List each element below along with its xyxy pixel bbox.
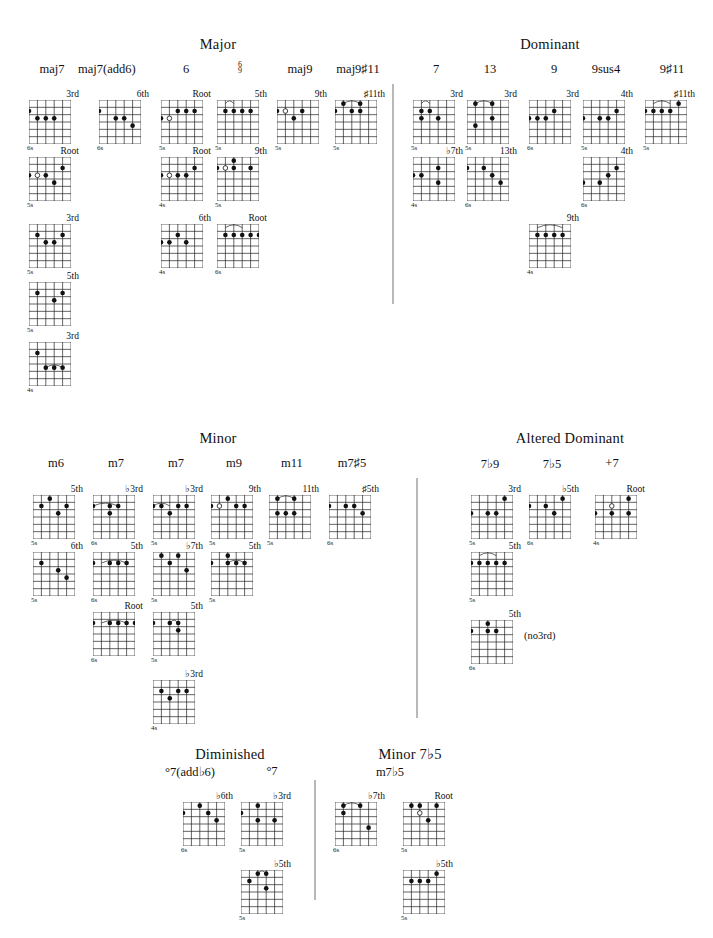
chord-diagram-caption: 5th [466, 608, 522, 620]
divider-dim-m7b5 [314, 780, 316, 900]
fret-position-label: 5s [236, 914, 292, 923]
chord-diagram-m9-2: 5th5s [206, 540, 262, 605]
divider-major-dominant [392, 84, 394, 304]
divider-minor-altered [416, 478, 418, 718]
fretboard-grid [335, 802, 377, 846]
fret-position-label: 5s [148, 656, 204, 665]
chord-label-m7a: m7 [88, 456, 144, 471]
chord-diagram-caption: ♭5th [524, 483, 580, 495]
chord-diagram-dom9sus4-1: 4th5s [578, 88, 634, 153]
chord-diagram-caption: 5th [148, 600, 204, 612]
chord-diagram-caption: ♭3rd [88, 483, 144, 495]
chord-diagram-caption: ♭7th [330, 790, 386, 802]
fretboard-grid [33, 552, 75, 596]
chord-diagram-side-note: (no3rd) [524, 630, 556, 641]
chord-diagram-dim7addb6-1: ♭6th6s [178, 790, 234, 855]
chord-diagram-m7b-3: 5th5s [148, 600, 204, 665]
chord-diagram-m7s5-1: ♯5th6s [324, 483, 380, 548]
chord-label-six-nine: 69 [212, 60, 268, 75]
chord-label-m6: m6 [28, 456, 84, 471]
chord-diagram-m7b5-3: ♭5th5s [398, 858, 454, 923]
chord-diagram-caption: ♯11th [640, 88, 696, 100]
fretboard-grid [413, 157, 455, 201]
chord-diagram-caption: 4th [578, 145, 634, 157]
family-title-diminished: Diminished [150, 746, 310, 763]
fret-position-label: 6s [330, 846, 386, 855]
chord-label-m7b5col: m7♭5 [362, 764, 418, 780]
fretboard-grid [277, 100, 319, 144]
chord-diagram-caption: Root [398, 790, 454, 802]
fretboard-grid [269, 495, 311, 539]
chord-diagram-caption: 3rd [524, 88, 580, 100]
fret-position-label: 5s [206, 596, 262, 605]
chord-diagram-caption: 3rd [24, 330, 80, 342]
chord-diagram-dom7-1: 3rd5s [408, 88, 464, 153]
chord-diagram-caption: ♭3rd [148, 483, 204, 495]
chord-diagram-caption: 6th [156, 212, 212, 224]
chord-diagram-dom13-1: 3rd5s [462, 88, 518, 153]
fret-position-label: 5s [272, 144, 328, 153]
chord-diagram-caption: 11th [264, 483, 320, 495]
fretboard-grid [583, 100, 625, 144]
chord-diagram-maj7-3: 3rd5s [24, 212, 80, 277]
chord-diagram-dom9s11-1: ♯11th5s [640, 88, 696, 153]
fretboard-grid [583, 157, 625, 201]
chord-diagram-caption: 9th [524, 212, 580, 224]
fretboard-grid [33, 495, 75, 539]
fret-position-label: 6s [88, 656, 144, 665]
family-title-minor7b5: Minor 7♭5 [330, 746, 490, 763]
fretboard-grid [529, 100, 571, 144]
chord-diagram-caption: 3rd [466, 483, 522, 495]
chord-diagram-caption: Root [590, 483, 646, 495]
chord-diagram-six-2: Root4s [156, 145, 212, 210]
fretboard-grid [29, 342, 71, 386]
chord-diagram-caption: 5th [88, 540, 144, 552]
fret-position-label: 5s [212, 201, 268, 210]
chord-diagram-caption: 9th [212, 145, 268, 157]
chord-diagram-dom7-2: ♭7th4s [408, 145, 464, 210]
fret-position-label: 6s [94, 144, 150, 153]
fret-position-label: 6s [466, 664, 522, 673]
chord-diagram-caption: Root [212, 212, 268, 224]
chord-diagram-caption: ♭6th [178, 790, 234, 802]
chord-diagram-caption: 3rd [462, 88, 518, 100]
fret-position-label: 5s [28, 596, 84, 605]
fretboard-grid [153, 552, 195, 596]
fretboard-grid [153, 612, 195, 656]
chord-diagram-m7b-2: ♭7th5s [148, 540, 204, 605]
fretboard-grid [595, 495, 637, 539]
fret-position-label: 6s [524, 144, 580, 153]
fretboard-grid [153, 495, 195, 539]
fret-position-label: 4s [24, 386, 80, 395]
chord-diagram-m6-2: 6th5s [28, 540, 84, 605]
chord-diagram-m11-1: 11th5s [264, 483, 320, 548]
fret-position-label: 4s [148, 724, 204, 733]
fretboard-grid [217, 100, 259, 144]
fret-position-label: 5s [466, 596, 522, 605]
fretboard-grid [211, 552, 253, 596]
chord-label-dim7add b6: °7(add♭6) [162, 764, 218, 780]
chord-diagram-m7a-1: ♭3rd6s [88, 483, 144, 548]
chord-diagram-caption: Root [88, 600, 144, 612]
fret-position-label: 6s [524, 539, 580, 548]
chord-diagram-m7b-1: ♭3rd5s [148, 483, 204, 548]
family-title-minor: Minor [28, 430, 408, 447]
chord-label-m7b: m7 [148, 456, 204, 471]
chord-diagram-caption: 5th [206, 540, 262, 552]
chord-diagram-caption: 9th [206, 483, 262, 495]
chord-diagram-caption: 3rd [408, 88, 464, 100]
chord-label-maj7: maj7 [24, 62, 80, 77]
fretboard-grid [467, 100, 509, 144]
chord-label-dom9: 9 [526, 62, 582, 77]
chord-diagram-sixnine-3: Root6s [212, 212, 268, 277]
chord-diagram-maj7-1: 3rd6s [24, 88, 80, 153]
fretboard-grid [217, 157, 259, 201]
chord-label-maj9s11: maj9♯11 [330, 62, 386, 77]
chord-diagram-maj7-2: Root5s [24, 145, 80, 210]
chord-diagram-7b9-2: 5th5s [466, 540, 522, 605]
fretboard-grid [645, 100, 687, 144]
fret-position-label: 5s [330, 144, 386, 153]
chord-diagram-dim7-2: ♭5th5s [236, 858, 292, 923]
chord-diagram-maj7-4: 5th5s [24, 270, 80, 335]
chord-diagram-caption: 5th [24, 270, 80, 282]
